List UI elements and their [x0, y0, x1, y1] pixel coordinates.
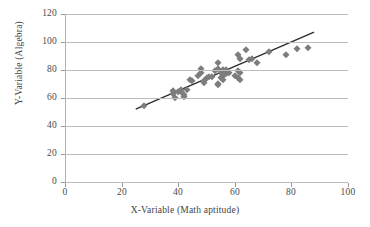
- y-axis-title: Y-Variable (Algebra): [14, 0, 24, 143]
- y-axis-tick: [61, 14, 65, 15]
- y-axis-tick-label: 40: [47, 120, 57, 130]
- y-axis-tick: [61, 126, 65, 127]
- x-axis-tick-label: 60: [220, 187, 250, 197]
- gridline: [65, 182, 348, 183]
- y-axis-tick-label: 60: [47, 92, 57, 102]
- gridline: [65, 70, 348, 71]
- gridline: [65, 14, 348, 15]
- x-axis-title: X-Variable (Math aptitude): [0, 205, 370, 215]
- x-axis-tick-label: 40: [163, 187, 193, 197]
- x-axis-tick-label: 80: [276, 187, 306, 197]
- x-axis-tick-label: 0: [50, 187, 80, 197]
- gridline: [65, 126, 348, 127]
- y-axis-tick-label: 100: [42, 36, 57, 46]
- gridline: [65, 42, 348, 43]
- gridline: [65, 154, 348, 155]
- scatter-plot-figure: 020406080100120 020406080100 X-Variable …: [0, 0, 370, 227]
- y-axis-tick: [61, 98, 65, 99]
- y-axis-tick-label: 120: [42, 8, 57, 18]
- y-axis-tick-label: 0: [52, 176, 57, 186]
- y-axis-tick: [61, 42, 65, 43]
- y-axis-tick-label: 80: [47, 64, 57, 74]
- y-axis-tick: [61, 70, 65, 71]
- x-axis-tick-label: 100: [333, 187, 363, 197]
- y-axis-tick-label: 20: [47, 148, 57, 158]
- x-axis-tick-label: 20: [107, 187, 137, 197]
- gridline: [65, 98, 348, 99]
- y-axis-tick: [61, 154, 65, 155]
